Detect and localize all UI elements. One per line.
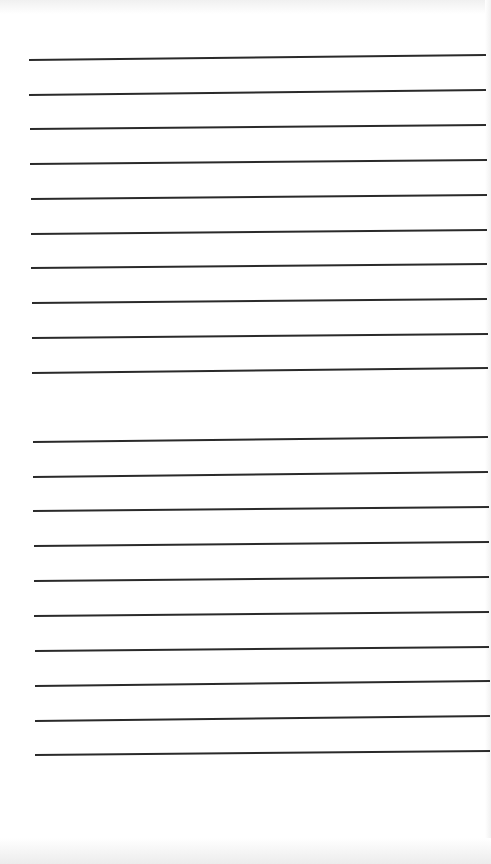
ruled-line [30,124,486,129]
ruled-line [34,541,489,546]
ruled-line [29,54,486,60]
ruled-line [30,159,487,164]
ruled-line [31,263,487,268]
ruled-line [35,646,489,651]
paper-top-edge [0,0,491,14]
ruled-line [33,436,488,442]
ruled-line [35,750,490,755]
ruled-line [32,333,488,338]
ruled-line [35,680,490,686]
ruled-line [31,229,487,234]
paper-bottom-edge [0,838,491,864]
ruled-line [33,471,488,477]
ruled-line [34,576,489,581]
paper-right-edge [485,0,491,864]
ruled-line [31,194,487,199]
ruled-line [29,89,486,95]
ruled-line [33,506,489,511]
ruled-line [35,715,490,721]
ruled-line [32,367,488,373]
ruled-line [32,298,487,303]
ruled-line [34,611,489,616]
